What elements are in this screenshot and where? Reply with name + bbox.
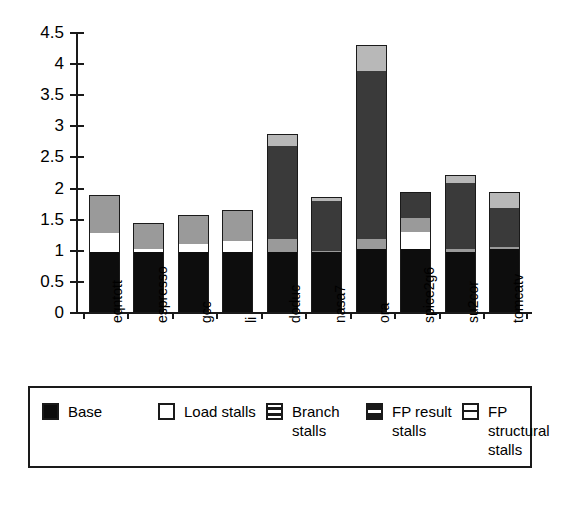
plot-area: 4.543.532.521.510.50 eqntottespressogccl… xyxy=(0,0,566,320)
legend-item-branch-stalls[interactable]: Branch stalls xyxy=(266,402,361,440)
y-tick-label: 4.5 xyxy=(6,24,64,41)
y-tick-label: 3.5 xyxy=(6,86,64,103)
x-tick-mark xyxy=(127,312,129,319)
x-tick-mark xyxy=(350,312,352,319)
bar-ora xyxy=(356,45,387,313)
x-tick-mark xyxy=(83,312,85,319)
bar-li xyxy=(222,210,253,313)
legend-item-fp-result-stalls[interactable]: FP result stalls xyxy=(366,402,461,440)
y-tick-mark xyxy=(70,32,84,34)
y-tick-mark xyxy=(70,63,84,65)
y-tick-mark xyxy=(70,281,84,283)
bar-segment-branch-stalls xyxy=(90,196,119,233)
x-axis-label-gcc: gcc xyxy=(199,301,213,323)
legend-label: Branch stalls xyxy=(292,402,361,440)
legend-label: FP result stalls xyxy=(392,402,461,440)
x-axis-label-doduc: doduc xyxy=(288,285,302,323)
thick-stripe-swatch-icon xyxy=(366,403,383,420)
bar-segment-fp-result-stalls xyxy=(401,193,430,217)
bar-segment-fp-structural-stalls xyxy=(446,176,475,183)
bar-segment-load-stalls xyxy=(90,233,119,252)
x-tick-mark xyxy=(216,312,218,319)
y-tick-label: 2 xyxy=(6,180,64,197)
legend-item-load-stalls[interactable]: Load stalls xyxy=(158,402,263,421)
x-axis-label-su2cor: su2cor xyxy=(466,281,480,323)
bar-segment-branch-stalls xyxy=(179,216,208,243)
bar-segment-fp-result-stalls xyxy=(268,146,297,239)
stacked-bar-chart-figure: 4.543.532.521.510.50 eqntottespressogccl… xyxy=(0,0,566,506)
bar-segment-base xyxy=(223,252,252,313)
x-axis-label-li: li xyxy=(244,317,258,323)
x-tick-mark xyxy=(305,312,307,319)
y-tick-mark xyxy=(70,188,84,190)
bar-segment-load-stalls xyxy=(401,232,430,249)
bar-segment-fp-structural-stalls xyxy=(357,46,386,71)
x-axis-label-ora: ora xyxy=(377,303,391,323)
y-tick-mark xyxy=(70,94,84,96)
legend-item-base[interactable]: Base xyxy=(42,402,152,421)
x-axis-label-eqntott: eqntott xyxy=(110,280,124,323)
legend-label: FP structural stalls xyxy=(488,402,550,459)
y-tick-label: 3 xyxy=(6,117,64,134)
bar-segment-branch-stalls xyxy=(268,239,297,251)
x-tick-mark xyxy=(439,312,441,319)
x-tick-mark xyxy=(394,312,396,319)
x-tick-mark xyxy=(261,312,263,319)
y-tick-mark xyxy=(70,125,84,127)
legend-box: BaseLoad stallsBranch stallsFP result st… xyxy=(28,386,532,468)
y-tick-label: 1.5 xyxy=(6,211,64,228)
x-tick-mark xyxy=(483,312,485,319)
y-tick-mark xyxy=(70,219,84,221)
x-axis-label-espresso: espresso xyxy=(155,266,169,323)
x-axis-label-tomcatv: tomcatv xyxy=(511,274,525,323)
y-tick-label: 0.5 xyxy=(6,273,64,290)
legend-label: Load stalls xyxy=(184,402,256,421)
single-line-swatch-icon xyxy=(462,403,479,420)
legend-items: BaseLoad stallsBranch stallsFP result st… xyxy=(30,388,530,466)
bar-segment-branch-stalls xyxy=(223,211,252,241)
solid-black-swatch-icon xyxy=(42,403,59,420)
x-tick-mark xyxy=(526,312,528,319)
y-tick-label: 2.5 xyxy=(6,148,64,165)
bar-segment-fp-structural-stalls xyxy=(490,193,519,209)
bar-segment-branch-stalls xyxy=(357,239,386,248)
bar-segment-load-stalls xyxy=(179,244,208,252)
bar-segment-fp-result-stalls xyxy=(312,201,341,251)
x-axis-label-nasa7: nasa7 xyxy=(333,285,347,323)
legend-label: Base xyxy=(68,402,102,421)
bar-gcc xyxy=(178,215,209,313)
y-tick-label: 0 xyxy=(6,304,64,321)
horizontal-stripe-swatch-icon xyxy=(266,403,283,420)
y-tick-label: 4 xyxy=(6,55,64,72)
bar-segment-branch-stalls xyxy=(134,224,163,249)
x-axis-label-spice2g6: spice2g6 xyxy=(422,267,436,323)
x-tick-mark xyxy=(172,312,174,319)
bar-segment-load-stalls xyxy=(223,241,252,252)
bar-segment-branch-stalls xyxy=(401,218,430,232)
bar-segment-fp-result-stalls xyxy=(490,208,519,247)
y-tick-mark xyxy=(70,156,84,158)
legend-item-fp-structural-stalls[interactable]: FP structural stalls xyxy=(462,402,537,459)
y-tick-label: 1 xyxy=(6,242,64,259)
bar-segment-fp-result-stalls xyxy=(357,71,386,239)
empty-white-swatch-icon xyxy=(158,403,175,420)
y-axis-line xyxy=(76,33,78,314)
y-tick-mark xyxy=(70,250,84,252)
bar-segment-fp-result-stalls xyxy=(446,183,475,248)
bar-segment-fp-structural-stalls xyxy=(268,135,297,146)
